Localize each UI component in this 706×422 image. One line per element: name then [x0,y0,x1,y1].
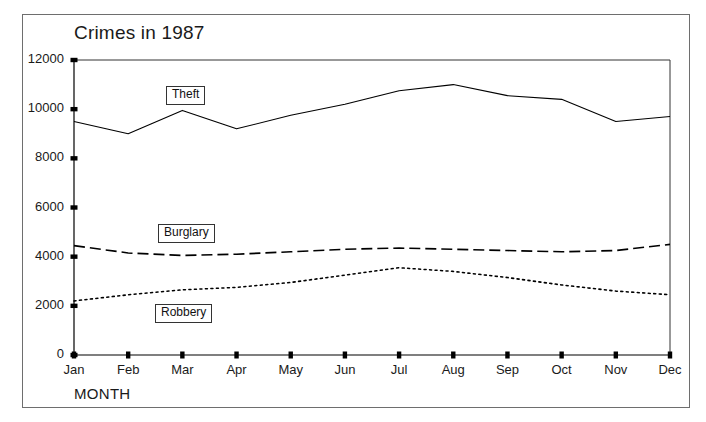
series-label-robbery: Robbery [155,304,212,323]
y-axis-tick-label: 2000 [8,297,64,312]
x-tick-mark [668,352,672,359]
x-tick-mark [234,352,238,359]
x-axis-tick-label: Jul [374,362,424,377]
y-axis-tick-label: 6000 [8,199,64,214]
y-axis-tick-label: 0 [8,346,64,361]
x-axis-tick-label: Mar [157,362,207,377]
x-axis-title: MONTH [74,385,131,402]
series-label-burglary: Burglary [158,224,215,243]
y-tick-mark [71,205,78,209]
y-axis-tick-label: 8000 [8,149,64,164]
x-tick-mark [180,352,184,359]
x-tick-mark [126,352,130,359]
y-tick-mark [71,304,78,308]
x-tick-mark [397,352,401,359]
x-axis-tick-label: May [266,362,316,377]
x-axis-tick-label: Dec [645,362,695,377]
data-series-group [74,85,670,301]
x-axis-tick-label: Nov [591,362,641,377]
series-line-theft [74,85,670,134]
x-tick-mark [451,352,455,359]
x-axis-tick-label: Feb [103,362,153,377]
x-axis-tick-label: Sep [482,362,532,377]
y-tick-mark [71,58,78,62]
y-tick-mark [71,107,78,111]
x-tick-mark [343,352,347,359]
x-tick-mark [289,352,293,359]
series-line-robbery [74,268,670,301]
series-label-theft: Theft [166,86,205,105]
y-tick-mark [71,156,78,160]
y-axis-tick-label: 12000 [8,51,64,66]
series-line-burglary [74,244,670,255]
x-axis-tick-label: Aug [428,362,478,377]
x-tick-mark [559,352,563,359]
x-axis-tick-label: Jan [49,362,99,377]
plot-area [0,0,706,422]
x-tick-mark [505,352,509,359]
y-axis-tick-label: 4000 [8,248,64,263]
x-tick-mark [72,352,76,359]
x-axis-tick-label: Jun [320,362,370,377]
x-tick-mark [614,352,618,359]
y-axis-tick-label: 10000 [8,100,64,115]
x-axis-tick-label: Oct [537,362,587,377]
chart-page: Crimes in 1987 0200040006000800010000120… [0,0,706,422]
y-tick-mark [71,254,78,258]
x-axis-tick-label: Apr [212,362,262,377]
